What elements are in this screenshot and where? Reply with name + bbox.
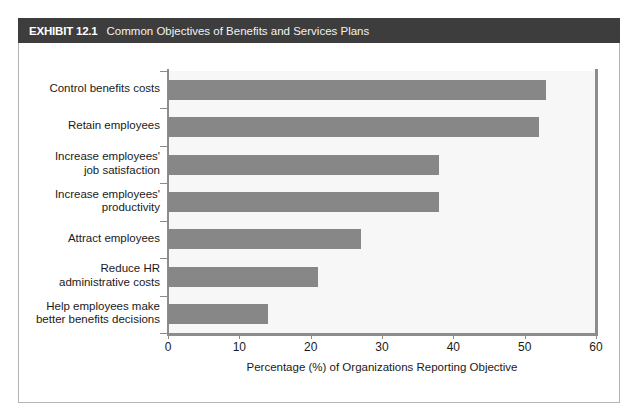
bar: [168, 117, 539, 137]
x-axis-title: Percentage (%) of Organizations Reportin…: [168, 361, 596, 373]
x-axis-tick-label: 60: [576, 340, 616, 354]
plot-right-edge-line: [595, 69, 598, 335]
bar: [168, 192, 439, 212]
category-label: Reduce HRadministrative costs: [20, 262, 160, 289]
bar: [168, 267, 318, 287]
y-axis-tick: [160, 296, 168, 297]
x-axis-tick-label: 20: [291, 340, 331, 354]
exhibit-number-label: EXHIBIT 12.1: [29, 25, 98, 37]
exhibit-figure: EXHIBIT 12.1 Common Objectives of Benefi…: [18, 18, 620, 403]
category-label: Help employees makebetter benefits decis…: [20, 300, 160, 327]
bar: [168, 229, 361, 249]
category-label: Increase employees'productivity: [20, 188, 160, 215]
category-label-line: administrative costs: [20, 276, 160, 290]
category-label-line: Help employees make: [20, 300, 160, 314]
category-label-line: Attract employees: [20, 232, 160, 246]
x-axis-tick: [525, 333, 526, 339]
x-axis-tick-label: 30: [362, 340, 402, 354]
x-axis-tick: [453, 333, 454, 339]
x-axis-tick: [239, 333, 240, 339]
y-axis-tick: [160, 183, 168, 184]
category-label-line: Increase employees': [20, 188, 160, 202]
x-axis-tick-label: 10: [219, 340, 259, 354]
x-axis-tick: [382, 333, 383, 339]
x-axis-tick-label: 40: [433, 340, 473, 354]
category-label-line: job satisfaction: [20, 164, 160, 178]
exhibit-header-bar: EXHIBIT 12.1 Common Objectives of Benefi…: [18, 18, 620, 43]
y-axis-tick: [160, 71, 168, 72]
bar: [168, 155, 439, 175]
x-axis-tick: [596, 333, 597, 339]
category-label: Retain employees: [20, 119, 160, 133]
y-axis-category-labels: Control benefits costsRetain employeesIn…: [19, 43, 160, 343]
y-axis-tick: [160, 333, 168, 334]
category-label-line: Reduce HR: [20, 262, 160, 276]
x-axis-tick: [168, 333, 169, 339]
bar-chart: Control benefits costsRetain employeesIn…: [19, 43, 619, 401]
category-label: Attract employees: [20, 232, 160, 246]
category-label-line: better benefits decisions: [20, 313, 160, 327]
bar: [168, 304, 268, 324]
category-label: Control benefits costs: [20, 82, 160, 96]
y-axis-tick: [160, 258, 168, 259]
x-axis-tick-label: 0: [148, 340, 188, 354]
category-label: Increase employees'job satisfaction: [20, 150, 160, 177]
category-label-line: Control benefits costs: [20, 82, 160, 96]
category-label-line: productivity: [20, 201, 160, 215]
bar: [168, 80, 546, 100]
exhibit-title-label: Common Objectives of Benefits and Servic…: [107, 25, 370, 37]
x-axis-tick-label: 50: [505, 340, 545, 354]
x-axis-tick: [311, 333, 312, 339]
y-axis-tick: [160, 108, 168, 109]
category-label-line: Increase employees': [20, 150, 160, 164]
y-axis-tick: [160, 221, 168, 222]
category-label-line: Retain employees: [20, 119, 160, 133]
y-axis-tick: [160, 146, 168, 147]
